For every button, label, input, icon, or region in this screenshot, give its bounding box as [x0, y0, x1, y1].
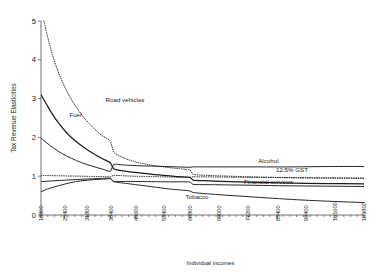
y-tick-label: 1	[32, 172, 36, 181]
x-tick-label: 60800	[187, 205, 193, 221]
y-tick-label: 0	[32, 211, 36, 220]
series-label-road-vehicles: Road vehicles	[106, 96, 145, 103]
y-tick-label: 2	[32, 133, 36, 142]
series-line-alcohol	[41, 138, 364, 171]
x-tick-label: 53400	[161, 205, 167, 221]
series-label-tobacco: Tobacco	[185, 193, 209, 200]
y-tick-label: 5	[32, 17, 36, 26]
series-line-12-5-gst	[41, 175, 364, 178]
series-label-fuel: Fuel	[69, 111, 81, 118]
x-tick-label: 45600	[133, 205, 139, 221]
x-tick-label: 18800	[38, 205, 44, 221]
x-tick-label: 31800	[84, 205, 90, 221]
series-line-financial-services	[41, 178, 364, 186]
tax-elasticity-chart: 0123451880025400318003840045600534006080…	[0, 0, 376, 272]
x-tick-label: 93400	[303, 205, 309, 221]
x-axis-title: Individual incomes	[187, 260, 235, 266]
x-tick-label: 25400	[62, 205, 68, 221]
x-tick-label: 69000	[216, 205, 222, 221]
x-tick-label: 77200	[245, 205, 251, 221]
x-tick-label: 109800	[361, 202, 367, 221]
series-label-alcohol: Alcohol	[258, 157, 278, 164]
series-line-road-vehicles	[44, 21, 364, 179]
chart-canvas: 0123451880025400318003840045600534006080…	[0, 0, 376, 272]
series-label-financial-services: Financial services	[244, 178, 293, 185]
x-tick-label: 101600	[332, 202, 338, 221]
y-axis-title: Tax Revenue Elasticities	[10, 83, 17, 152]
series-line-fuel	[41, 95, 364, 184]
y-tick-label: 4	[32, 55, 36, 64]
x-tick-label: 38400	[108, 205, 114, 221]
y-tick-label: 3	[32, 94, 36, 103]
series-label-12-5-gst: 12.5% GST	[276, 166, 308, 173]
x-tick-label: 85400	[275, 205, 281, 221]
